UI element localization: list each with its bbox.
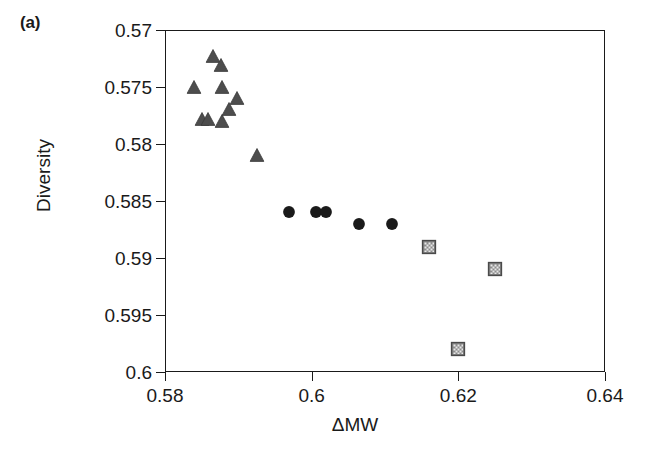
y-tick-label-group: 0.570.5750.580.5850.590.5950.6 — [0, 0, 152, 458]
x-tick-label: 0.64 — [587, 386, 624, 405]
x-tick-mark — [605, 372, 606, 381]
x-tick-label: 0.6 — [298, 386, 324, 405]
y-tick-mark — [156, 201, 165, 202]
y-tick-mark — [156, 372, 165, 373]
x-axis-title: ΔMW — [0, 415, 650, 434]
y-tick-mark — [156, 87, 165, 88]
y-tick-label: 0.57 — [2, 21, 152, 40]
y-tick-label: 0.58 — [2, 135, 152, 154]
y-tick-label: 0.595 — [2, 306, 152, 325]
x-tick-label: 0.58 — [147, 386, 184, 405]
x-tick-mark — [458, 372, 459, 381]
y-tick-label: 0.59 — [2, 249, 152, 268]
y-tick-mark — [156, 315, 165, 316]
y-tick-mark — [156, 258, 165, 259]
x-tick-mark — [165, 372, 166, 381]
plot-frame — [165, 30, 605, 372]
y-tick-mark — [156, 144, 165, 145]
y-tick-label: 0.585 — [2, 192, 152, 211]
y-tick-label: 0.6 — [2, 363, 152, 382]
x-tick-label: 0.62 — [440, 386, 477, 405]
x-tick-mark — [312, 372, 313, 381]
y-tick-label: 0.575 — [2, 78, 152, 97]
x-axis-title-text: ΔMW — [332, 414, 378, 435]
y-axis-title: Diversity — [34, 116, 53, 236]
scatter-plot-figure: (a) 0.570.5750.580.5850.590.5950.6 0.580… — [0, 0, 650, 458]
y-tick-mark — [156, 30, 165, 31]
